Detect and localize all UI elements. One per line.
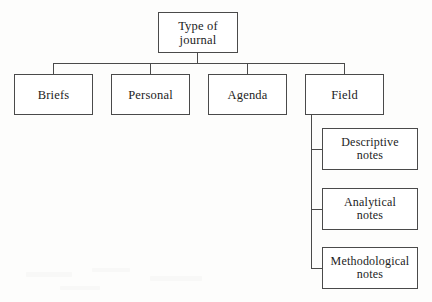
node-analytical-notes: Analyticalnotes	[322, 188, 418, 230]
node-label: Descriptivenotes	[339, 136, 401, 163]
node-label: Analyticalnotes	[342, 196, 398, 223]
node-label: Agenda	[225, 88, 269, 102]
node-descriptive-notes: Descriptivenotes	[322, 128, 418, 170]
node-personal: Personal	[111, 74, 190, 115]
node-briefs: Briefs	[14, 74, 93, 115]
connector-drop-personal	[150, 63, 151, 74]
node-label: Type ofjournal	[176, 19, 220, 47]
scan-artifact	[60, 286, 100, 290]
node-type-of-journal: Type ofjournal	[158, 12, 238, 53]
connector-stub-descriptive	[311, 149, 322, 150]
node-label: Field	[329, 88, 360, 102]
node-label: Methodologicalnotes	[329, 255, 412, 282]
connector-stub-analytical	[311, 209, 322, 210]
node-field: Field	[305, 74, 384, 115]
tree-diagram: Type ofjournal Briefs Personal Agenda Fi…	[0, 0, 432, 302]
scan-artifact	[26, 272, 72, 277]
scan-artifact	[92, 268, 130, 272]
connector-drop-field	[344, 63, 345, 74]
scan-artifact	[150, 276, 202, 281]
connector-level2-bus	[53, 63, 344, 64]
connector-field-stem	[311, 115, 312, 268]
node-label: Personal	[126, 88, 175, 102]
connector-drop-agenda	[247, 63, 248, 74]
connector-drop-briefs	[53, 63, 54, 74]
node-methodological-notes: Methodologicalnotes	[322, 247, 418, 289]
node-label: Briefs	[36, 88, 72, 102]
connector-root-stem	[197, 53, 198, 63]
connector-stub-methodological	[311, 268, 322, 269]
node-agenda: Agenda	[208, 74, 287, 115]
